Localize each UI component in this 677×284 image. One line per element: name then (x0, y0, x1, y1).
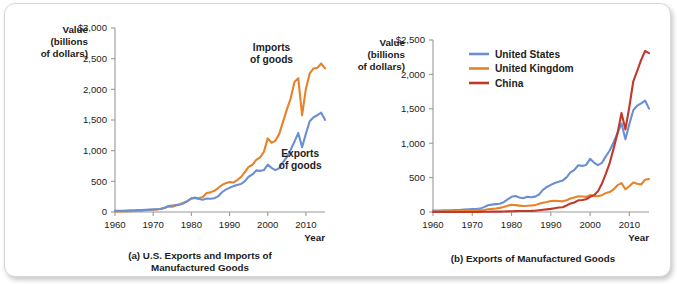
chart-b-svg: Value (billions of dollars) 05001,0001,5… (337, 0, 677, 284)
x-tick-label: 1990 (219, 219, 240, 230)
chart-a-xlabel: Year (304, 232, 325, 243)
x-tick-label: 1980 (501, 219, 522, 230)
chart-a-ylabel-line3: of dollars) (41, 48, 88, 59)
y-tick-label: 2,500 (83, 53, 107, 64)
y-tick-label: $2,500 (396, 34, 425, 45)
chart-b-x-ticks: 196019701980199020002010 (422, 212, 640, 230)
y-tick-label: 2,000 (83, 84, 107, 95)
legend-label-china: China (495, 78, 524, 89)
y-tick-label: 500 (91, 176, 107, 187)
y-tick-label: 1,500 (83, 114, 107, 125)
chart-panel-b: Value (billions of dollars) 05001,0001,5… (337, 0, 677, 284)
chart-panel-a: Value (billions of dollars) 05001,0001,5… (0, 0, 340, 284)
x-tick-label: 1960 (422, 219, 443, 230)
x-tick-label: 1960 (104, 219, 125, 230)
x-tick-label: 2000 (579, 219, 600, 230)
x-tick-label: 1970 (143, 219, 164, 230)
y-tick-label: 500 (409, 172, 425, 183)
chart-a-series-lines (115, 64, 325, 212)
series-annotation-line1: Exports (281, 148, 319, 159)
x-tick-label: 1980 (181, 219, 202, 230)
series-line-united-kingdom (433, 179, 649, 211)
chart-b-legend: United StatesUnited KingdomChina (469, 49, 574, 89)
y-tick-label: 1,500 (401, 103, 425, 114)
figure-card: Value (billions of dollars) 05001,0001,5… (0, 0, 677, 284)
chart-b-caption-line1: (b) Exports of Manufactured Goods (451, 253, 616, 264)
series-annotation-line2: of goods (250, 54, 293, 65)
x-tick-label: 1970 (462, 219, 483, 230)
chart-b-xlabel: Year (628, 232, 649, 243)
y-tick-label: 1,000 (401, 138, 425, 149)
legend-label-united-states: United States (495, 49, 560, 60)
x-tick-label: 2000 (257, 219, 278, 230)
chart-a-caption-line1: (a) U.S. Exports and Imports of (128, 250, 272, 261)
x-tick-label: 2010 (619, 219, 640, 230)
chart-b-ylabel-line2: (billions (367, 49, 405, 60)
series-line-imports-of-goods (115, 64, 325, 212)
y-tick-label: 0 (102, 206, 107, 217)
x-tick-label: 1990 (540, 219, 561, 230)
y-tick-label: 1,000 (83, 145, 107, 156)
y-tick-label: $3,000 (78, 22, 107, 33)
chart-b-series-lines (433, 51, 649, 212)
chart-a-ylabel-line2: (billions (50, 36, 88, 47)
chart-a-caption-line2: Manufactured Goods (151, 262, 250, 273)
legend-label-united-kingdom: United Kingdom (495, 63, 574, 74)
series-line-united-states (433, 101, 649, 211)
chart-a-svg: Value (billions of dollars) 05001,0001,5… (0, 0, 340, 284)
y-tick-label: 0 (420, 206, 425, 217)
series-annotation-line1: Imports (253, 42, 291, 53)
chart-a-x-ticks: 196019701980199020002010 (104, 212, 316, 230)
y-tick-label: 2,000 (401, 69, 425, 80)
series-line-china (433, 51, 649, 212)
x-tick-label: 2010 (295, 219, 316, 230)
series-annotation-line2: of goods (279, 160, 322, 171)
chart-a-annotations: Importsof goodsExportsof goods (250, 42, 322, 170)
chart-b-ylabel-line3: of dollars) (358, 61, 405, 72)
